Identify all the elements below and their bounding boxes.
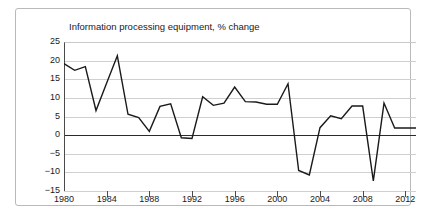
y-tick-label: −10 [18, 167, 60, 176]
x-tick-label: 2008 [346, 194, 380, 204]
chart-title: Information processing equipment, % chan… [69, 21, 260, 33]
series-line [64, 42, 416, 191]
x-tick-label: 1992 [175, 194, 209, 204]
x-tick-label: 1984 [90, 194, 124, 204]
y-axis-tick-labels: 2520151050−5−10−15 [16, 42, 60, 191]
y-tick-label: 25 [18, 37, 60, 46]
y-tick-label: 15 [18, 74, 60, 83]
chart-figure: Information processing equipment, % chan… [0, 0, 423, 216]
y-tick-label: 10 [18, 93, 60, 102]
x-tick-label: 2004 [303, 194, 337, 204]
x-axis-tick-labels: 198019841988199219962000200420082012 [64, 194, 416, 208]
y-tick-label: −5 [18, 149, 60, 158]
y-tick-label: 20 [18, 56, 60, 65]
y-tick-label: 0 [18, 130, 60, 139]
x-tick-label: 1980 [47, 194, 81, 204]
x-tick-label: 2000 [260, 194, 294, 204]
chart-frame: Information processing equipment, % chan… [15, 8, 411, 206]
y-tick-label: 5 [18, 112, 60, 121]
x-tick-label: 2012 [388, 194, 422, 204]
plot-area [64, 42, 416, 191]
x-tick-label: 1988 [132, 194, 166, 204]
x-tick-label: 1996 [218, 194, 252, 204]
